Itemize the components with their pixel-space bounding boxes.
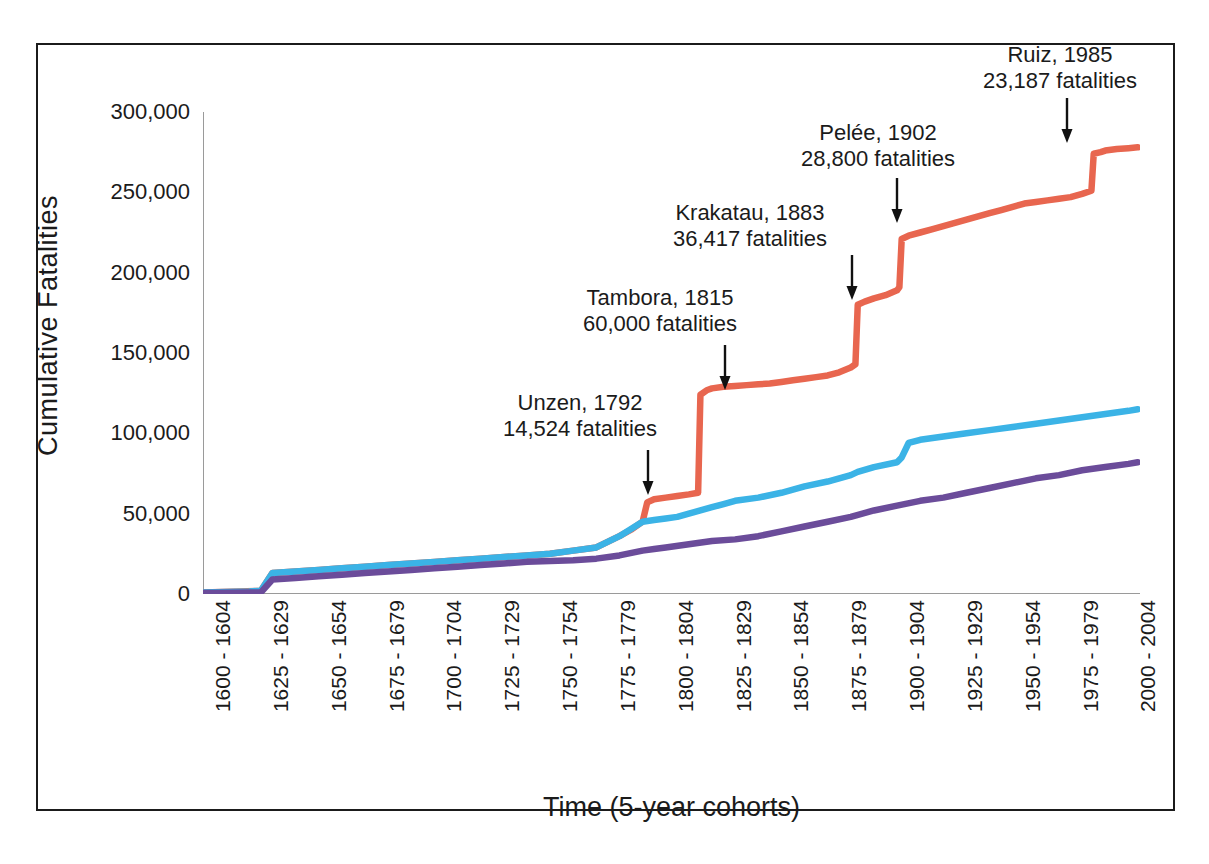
annotation-krakatau: Krakatau, 1883 36,417 fatalities <box>673 200 827 252</box>
annotation-tambora: Tambora, 1815 60,000 fatalities <box>583 285 737 337</box>
x-tick-label-16: 2000 - 2004 <box>1136 600 1160 712</box>
annotation-pelee: Pelée, 1902 28,800 fatalities <box>801 120 955 172</box>
annotation-krakatau-line1: Krakatau, 1883 <box>673 200 827 226</box>
annotation-arrow-pelee-icon <box>890 178 904 224</box>
x-tick-label-15: 1975 - 1979 <box>1079 600 1103 712</box>
y-tick-label-0: 0 <box>40 581 190 607</box>
plot-area <box>203 112 1140 594</box>
x-tick-label-3: 1675 - 1679 <box>385 600 409 712</box>
x-tick-label-12: 1900 - 1904 <box>905 600 929 712</box>
annotation-ruiz-line1: Ruiz, 1985 <box>983 42 1137 68</box>
y-tick-label-300000: 300,000 <box>40 99 190 125</box>
x-tick-label-11: 1875 - 1879 <box>847 600 871 712</box>
annotation-ruiz: Ruiz, 1985 23,187 fatalities <box>983 42 1137 94</box>
x-tick-label-1: 1625 - 1629 <box>269 600 293 712</box>
annotation-arrow-unzen-icon <box>641 450 655 496</box>
figure-canvas: Cumulative Fatalities 050,000100,000150,… <box>0 0 1209 864</box>
annotation-arrow-ruiz-icon <box>1060 98 1074 144</box>
x-tick-label-6: 1750 - 1754 <box>558 600 582 712</box>
series-line-tertiary-cumulative-purple <box>203 462 1138 593</box>
annotation-unzen-line2: 14,524 fatalities <box>503 416 657 442</box>
annotation-krakatau-line2: 36,417 fatalities <box>673 226 827 252</box>
x-tick-label-2: 1650 - 1654 <box>327 600 351 712</box>
annotation-unzen-line1: Unzen, 1792 <box>503 390 657 416</box>
y-tick-label-150000: 150,000 <box>40 340 190 366</box>
x-tick-label-4: 1700 - 1704 <box>442 600 466 712</box>
x-tick-label-8: 1800 - 1804 <box>674 600 698 712</box>
x-tick-label-13: 1925 - 1929 <box>963 600 987 712</box>
y-tick-label-250000: 250,000 <box>40 179 190 205</box>
x-tick-label-10: 1850 - 1854 <box>789 600 813 712</box>
series-lines-svg <box>203 112 1140 594</box>
x-tick-label-9: 1825 - 1829 <box>732 600 756 712</box>
annotation-tambora-line2: 60,000 fatalities <box>583 311 737 337</box>
series-line-secondary-cumulative-blue <box>203 409 1138 592</box>
x-axis-title: Time (5-year cohorts) <box>203 792 1140 823</box>
annotation-arrow-tambora-icon <box>718 345 732 391</box>
y-axis-tick-labels: 050,000100,000150,000200,000250,000300,0… <box>38 0 190 864</box>
x-tick-label-7: 1775 - 1779 <box>616 600 640 712</box>
y-tick-label-100000: 100,000 <box>40 420 190 446</box>
x-axis-tick-labels: 1600 - 16041625 - 16291650 - 16541675 - … <box>203 600 1140 790</box>
annotation-ruiz-line2: 23,187 fatalities <box>983 68 1137 94</box>
x-tick-label-14: 1950 - 1954 <box>1021 600 1045 712</box>
y-tick-label-50000: 50,000 <box>40 501 190 527</box>
annotation-pelee-line1: Pelée, 1902 <box>801 120 955 146</box>
x-tick-label-0: 1600 - 1604 <box>211 600 235 712</box>
y-tick-label-200000: 200,000 <box>40 260 190 286</box>
annotation-arrow-krakatau-icon <box>845 255 859 301</box>
annotation-pelee-line2: 28,800 fatalities <box>801 146 955 172</box>
annotation-tambora-line1: Tambora, 1815 <box>583 285 737 311</box>
x-tick-label-5: 1725 - 1729 <box>500 600 524 712</box>
series-line-total-with-major-events <box>203 147 1138 592</box>
annotation-unzen: Unzen, 1792 14,524 fatalities <box>503 390 657 442</box>
